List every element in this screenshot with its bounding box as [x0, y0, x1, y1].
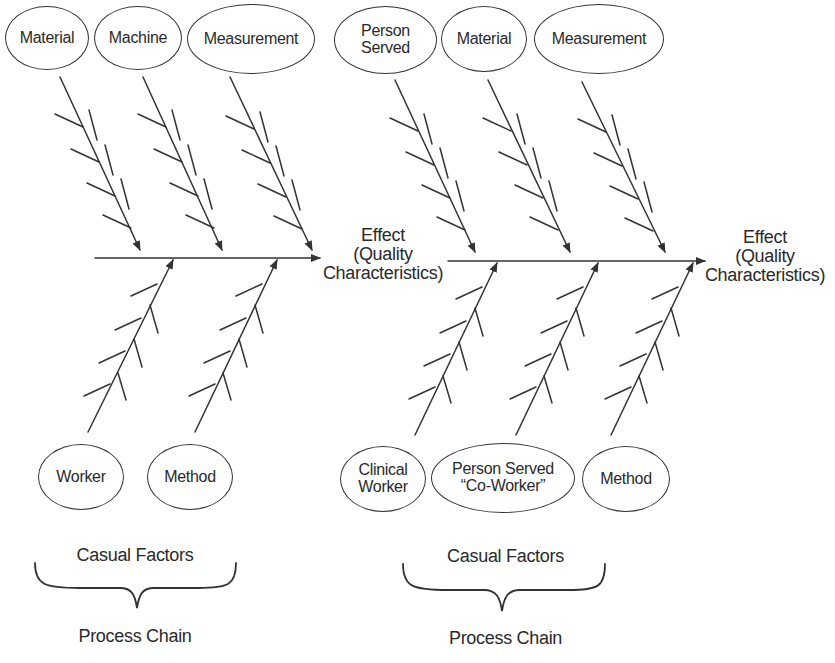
left-process-chain-label: Process Chain — [40, 627, 230, 646]
right-process-chain-label: Process Chain — [408, 629, 603, 648]
cause-node-person-served-co-worker: Person Served“Co-Worker” — [431, 443, 575, 513]
right-effect-label: Effect (Quality Characteristics) — [695, 228, 835, 285]
right-bone-person-served-co-worker — [510, 263, 598, 435]
right-bone-method — [605, 263, 693, 435]
left-bone-machine — [138, 77, 222, 250]
left-bone-measurement — [226, 77, 312, 250]
cause-node-person-served: PersonServed — [334, 6, 437, 74]
left-casual-factors-label: Casual Factors — [40, 546, 230, 565]
left-effect-label: Effect (Quality Characteristics) — [313, 226, 453, 283]
cause-node-worker: Worker — [38, 444, 124, 510]
cause-node-method-2: Method — [582, 446, 670, 512]
right-casual-factors-label: Casual Factors — [408, 547, 603, 566]
cause-node-clinical-worker: ClinicalWorker — [340, 446, 426, 512]
left-bone-method — [189, 260, 277, 432]
left-brace — [35, 563, 236, 608]
left-bone-worker — [84, 260, 173, 432]
cause-node-material-2: Material — [441, 6, 527, 72]
left-bone-material — [55, 77, 140, 250]
cause-node-measurement-2: Measurement — [534, 4, 664, 74]
cause-node-measurement: Measurement — [187, 4, 315, 74]
right-bone-measurement — [578, 82, 665, 252]
right-bone-material — [483, 80, 570, 252]
cause-node-method: Method — [147, 444, 233, 510]
right-brace — [403, 564, 605, 611]
cause-node-material: Material — [5, 6, 89, 70]
right-bone-clinical-worker — [409, 263, 497, 435]
cause-node-machine: Machine — [94, 6, 182, 70]
